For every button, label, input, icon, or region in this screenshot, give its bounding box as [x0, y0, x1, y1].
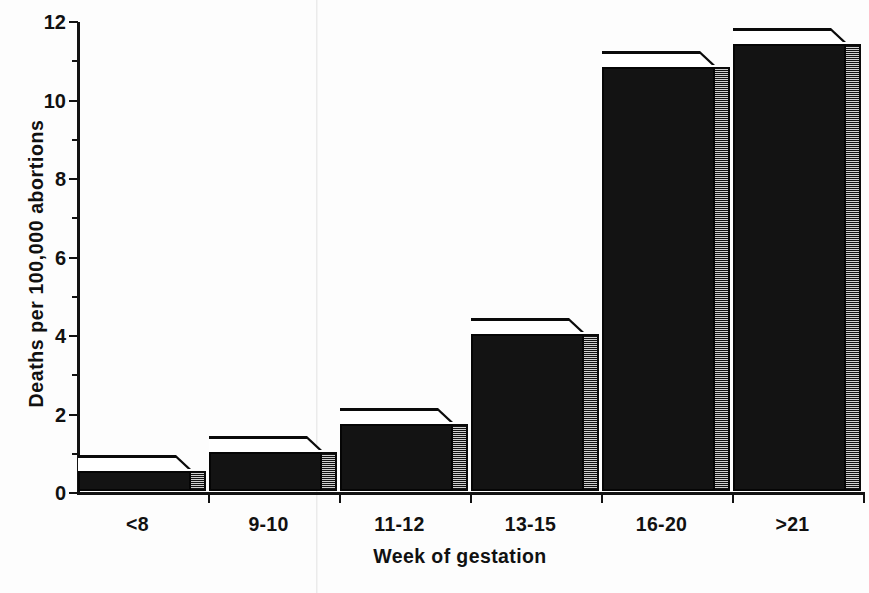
plot-area: 024681012 <89-1011-1213-1516-20>21 [78, 22, 864, 493]
bar-top-face [209, 439, 322, 453]
x-tick [732, 493, 734, 503]
y-tick-major [69, 335, 78, 337]
bar-side-face [191, 471, 206, 491]
bar [602, 67, 715, 491]
y-tick-major [69, 492, 78, 494]
bar-side-face [846, 44, 861, 491]
y-tick-label: 10 [26, 89, 66, 112]
y-tick-major [69, 257, 78, 259]
bar-front-face [602, 67, 715, 491]
y-tick-major [69, 100, 78, 102]
x-tick [601, 493, 603, 503]
bar-top-face [78, 458, 191, 472]
y-tick-label: 6 [26, 246, 66, 269]
bar-side-face [715, 67, 730, 491]
x-tick [208, 493, 210, 503]
y-tick-minor [72, 139, 78, 141]
bar-top-face [602, 54, 715, 68]
x-tick [863, 493, 865, 503]
chart-figure: Deaths per 100,000 abortions Week of ges… [0, 0, 869, 593]
y-tick-label: 0 [26, 482, 66, 505]
y-tick-minor [72, 217, 78, 219]
bar-front-face [340, 424, 453, 491]
y-tick-label: 2 [26, 403, 66, 426]
bar-side-face [584, 334, 599, 491]
bar-side-face [453, 424, 468, 491]
bar [209, 452, 322, 491]
y-tick-label: 4 [26, 325, 66, 348]
y-tick-major [69, 178, 78, 180]
bar-top-face [733, 31, 846, 45]
y-tick-minor [72, 60, 78, 62]
bar-front-face [209, 452, 322, 491]
y-tick-label: 12 [26, 11, 66, 34]
y-tick-label: 8 [26, 168, 66, 191]
x-category-label: 16-20 [636, 513, 687, 536]
x-category-label: 13-15 [505, 513, 556, 536]
y-tick-minor [72, 374, 78, 376]
bar [471, 334, 584, 491]
y-tick-major [69, 414, 78, 416]
x-category-label: >21 [776, 513, 810, 536]
x-category-label: <8 [126, 513, 149, 536]
bar-front-face [78, 471, 191, 491]
bar-side-face [322, 452, 337, 491]
bar-front-face [733, 44, 846, 491]
x-category-label: 9-10 [248, 513, 288, 536]
bar-front-face [471, 334, 584, 491]
y-tick-minor [72, 296, 78, 298]
bar-top-face [340, 411, 453, 425]
x-category-label: 11-12 [374, 513, 424, 536]
bar [733, 44, 846, 491]
x-tick [470, 493, 472, 503]
bar-top-face [471, 321, 584, 335]
x-tick [339, 493, 341, 503]
x-axis-title: Week of gestation [300, 545, 620, 568]
bar [78, 471, 191, 491]
bar [340, 424, 453, 491]
y-tick-major [69, 21, 78, 23]
